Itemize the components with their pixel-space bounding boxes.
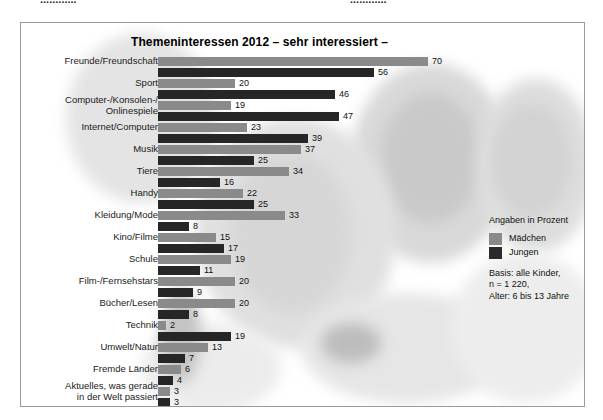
legend-item-jungen: Jungen (489, 247, 585, 259)
bar-row: Umwelt/Natur 13 7 (21, 342, 584, 364)
bar-value: 19 (235, 100, 245, 110)
bar-value: 15 (220, 232, 230, 242)
category-label: Tiere (20, 166, 158, 177)
bar-value: 11 (204, 265, 213, 275)
category-label: Freunde/Freundschaft (20, 56, 158, 67)
category-label: Internet/Computer (20, 122, 158, 133)
bar-value: 3 (174, 386, 179, 396)
bar-value: 20 (239, 276, 249, 286)
bar-value: 6 (185, 364, 190, 374)
cutoff-caption-strip: ............ ............ (0, 0, 603, 9)
bar-pair: 23 39 (158, 123, 578, 144)
legend-swatch-maedchen (489, 233, 502, 245)
bar-pair: 70 56 (158, 57, 578, 78)
bar-value: 2 (170, 320, 175, 330)
bar-value: 9 (197, 287, 202, 297)
bar-value: 8 (193, 309, 198, 319)
bar-value: 34 (293, 166, 303, 176)
bar-row: Aktuelles, was gerade in der Welt passie… (21, 386, 584, 407)
cutoff-caption-text: ............ (40, 0, 77, 5)
legend-swatch-jungen (489, 247, 502, 259)
bar-row: Handy 22 25 (21, 188, 584, 210)
category-label: Kleidung/Mode (20, 210, 158, 221)
bar-value: 37 (305, 144, 315, 154)
bar-value: 20 (239, 298, 249, 308)
chart-title: Themeninteressen 2012 – sehr interessier… (131, 35, 388, 49)
category-label: Musik (20, 144, 158, 155)
bar-value: 7 (189, 353, 194, 363)
bar-row: Computer-/Konsolen-/ Onlinespiele 19 47 (21, 100, 584, 122)
bar-value: 8 (193, 221, 198, 231)
bar-row: Internet/Computer 23 39 (21, 122, 584, 144)
legend: Angaben in Prozent Mädchen Jungen Basis:… (489, 215, 585, 302)
category-label: Umwelt/Natur (20, 342, 158, 353)
bar-pair: 19 47 (158, 101, 578, 122)
bar-pair: 2 19 (158, 321, 578, 342)
bar-value: 46 (339, 89, 349, 99)
bar-pair: 20 46 (158, 79, 578, 100)
bar-pair: 6 4 (158, 365, 578, 386)
bar-pair: 37 25 (158, 145, 578, 166)
category-label: Schule (20, 254, 158, 265)
bar-value: 70 (432, 56, 442, 66)
bar-value: 23 (251, 122, 261, 132)
bar-value: 17 (228, 243, 238, 253)
bar-value: 25 (258, 199, 268, 209)
bar-value: 25 (258, 155, 268, 165)
bar-value: 56 (378, 67, 388, 77)
bar-value: 13 (212, 342, 222, 352)
bar-row: Tiere 34 16 (21, 166, 584, 188)
bar-pair: 13 7 (158, 343, 578, 364)
legend-label-jungen: Jungen (509, 247, 539, 259)
bar-value: 20 (239, 78, 249, 88)
legend-basis-note: Basis: alle Kinder, n = 1 220, Alter: 6 … (489, 268, 585, 303)
bar-pair: 22 25 (158, 189, 578, 210)
bar-row: Freunde/Freundschaft 70 56 (21, 56, 584, 78)
category-label: Aktuelles, was gerade in der Welt passie… (20, 381, 158, 402)
cutoff-caption-text-2: ............ (350, 0, 387, 5)
bar-pair: 3 3 (158, 387, 578, 407)
legend-label-maedchen: Mädchen (509, 233, 546, 245)
category-label: Film-/Fernsehstars (20, 276, 158, 287)
bar-value: 39 (312, 133, 322, 143)
chart-figure: Themeninteressen 2012 – sehr interessier… (20, 22, 585, 407)
category-label: Sport (20, 78, 158, 89)
bar-row: Technik 2 19 (21, 320, 584, 342)
bar-value: 33 (289, 210, 299, 220)
bar-pair: 34 16 (158, 167, 578, 188)
category-label: Fremde Länder (20, 364, 158, 375)
bar-value: 22 (247, 188, 257, 198)
plot-area: Themeninteressen 2012 – sehr interessier… (21, 23, 584, 406)
category-label: Kino/Filme (20, 232, 158, 243)
bar-value: 4 (177, 375, 182, 385)
bar-value: 19 (235, 254, 245, 264)
bar-value: 47 (343, 111, 353, 121)
bar-pair: 20 8 (158, 299, 578, 320)
legend-title: Angaben in Prozent (489, 215, 585, 227)
legend-item-maedchen: Mädchen (489, 233, 585, 245)
category-label: Computer-/Konsolen-/ Onlinespiele (20, 95, 158, 116)
bar-value: 3 (174, 397, 179, 407)
bar-value: 16 (224, 177, 234, 187)
category-label: Technik (20, 320, 158, 331)
bar-value: 19 (235, 331, 245, 341)
bar-row: Musik 37 25 (21, 144, 584, 166)
category-label: Bücher/Lesen (20, 298, 158, 309)
category-label: Handy (20, 188, 158, 199)
